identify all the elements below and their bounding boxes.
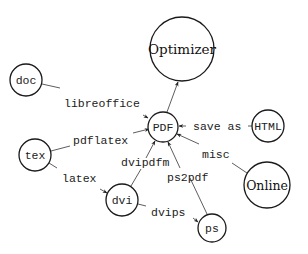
node-ps: ps <box>198 214 226 242</box>
edge-dvi-to-pdf: dvipdfm <box>121 141 169 186</box>
edge-label-save-as: save as <box>193 120 241 133</box>
edge-label-ps2pdf: ps2pdf <box>167 171 209 184</box>
node-dvi: dvi <box>106 184 138 216</box>
edge-tex-to-pdf: pdflatex <box>51 129 149 151</box>
edge-online-to-pdf: misc <box>177 134 247 173</box>
node-label-pdf: PDF <box>153 121 174 134</box>
node-tex: tex <box>19 139 51 171</box>
node-label-dvi: dvi <box>112 194 133 207</box>
node-pdf: PDF <box>148 112 178 142</box>
node-doc: doc <box>10 64 42 96</box>
edge-pdf-to-optimizer <box>167 82 178 112</box>
node-label-ps: ps <box>205 222 219 235</box>
edge-label-libreoffice: libreoffice <box>64 97 140 110</box>
edge-dvi-to-ps: dvips <box>138 204 198 222</box>
edge-label-dvipdfm: dvipdfm <box>121 156 169 169</box>
node-optimizer: Optimizer <box>148 17 217 81</box>
edge-tex-to-dvi: latex <box>49 163 107 193</box>
conversion-diagram: libreoffice pdflatex save as misc latex … <box>0 0 308 254</box>
node-online: Online <box>244 162 290 208</box>
edge-label-dvips: dvips <box>151 206 186 219</box>
node-label-doc: doc <box>16 74 37 87</box>
node-label-tex: tex <box>25 149 46 162</box>
edge-label-latex: latex <box>62 172 97 185</box>
edge-doc-to-pdf: libreoffice <box>42 84 148 118</box>
edge-html-to-pdf: save as <box>179 120 252 133</box>
edge-label-misc: misc <box>202 148 230 161</box>
edge-label-pdflatex: pdflatex <box>73 134 128 147</box>
node-label-optimizer: Optimizer <box>148 41 217 57</box>
node-html: HTML <box>252 110 284 142</box>
node-label-html: HTML <box>254 120 282 133</box>
node-label-online: Online <box>246 178 288 193</box>
